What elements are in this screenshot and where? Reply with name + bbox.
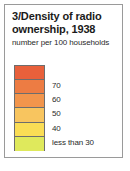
legend-label: 40 bbox=[52, 122, 120, 136]
legend-swatch bbox=[15, 137, 44, 151]
legend-label: 50 bbox=[52, 107, 120, 121]
legend-swatch bbox=[15, 80, 44, 94]
legend-label bbox=[52, 65, 120, 79]
legend-label: 60 bbox=[52, 93, 120, 107]
legend-swatch bbox=[15, 66, 44, 80]
legend-label: 70 bbox=[52, 79, 120, 93]
legend-swatch bbox=[15, 108, 44, 122]
legend-label-column: 70 60 50 40 less than 30 bbox=[52, 65, 120, 151]
legend-swatch bbox=[15, 123, 44, 137]
legend-swatch bbox=[15, 94, 44, 108]
map-legend-card: 3/Density of radio ownership, 1938 numbe… bbox=[4, 4, 123, 158]
legend-subtitle: number per 100 households bbox=[12, 38, 116, 48]
legend-label: less than 30 bbox=[52, 136, 120, 150]
legend-title: 3/Density of radio ownership, 1938 bbox=[12, 10, 118, 35]
legend-color-scale bbox=[14, 65, 45, 151]
